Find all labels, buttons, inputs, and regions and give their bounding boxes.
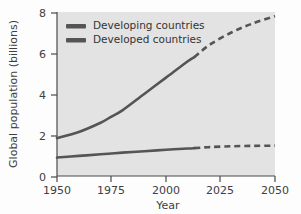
x-axis-title: Year — [155, 199, 180, 212]
y-axis-title: Global population (billions) — [7, 20, 20, 168]
y-tick-label-2: 2 — [39, 130, 46, 143]
legend-label-developing: Developing countries — [93, 19, 205, 31]
x-tick-label-2050: 2050 — [261, 184, 289, 197]
y-tick-label-6: 6 — [39, 48, 46, 61]
x-tick-label-2000: 2000 — [152, 184, 180, 197]
x-axis-ticks — [57, 176, 275, 182]
population-line-chart: 0 2 4 6 8 1950 1975 2000 2025 2050 Year … — [0, 0, 301, 214]
y-tick-label-8: 8 — [39, 7, 46, 20]
x-tick-label-1950: 1950 — [43, 184, 71, 197]
x-axis-tick-labels: 1950 1975 2000 2025 2050 — [43, 184, 289, 197]
y-axis-ticks — [51, 13, 57, 177]
x-tick-label-1975: 1975 — [97, 184, 125, 197]
chart-figure: 0 2 4 6 8 1950 1975 2000 2025 2050 Year … — [0, 0, 301, 214]
y-tick-label-4: 4 — [39, 89, 46, 102]
legend-label-developed: Developed countries — [93, 33, 201, 45]
x-tick-label-2025: 2025 — [206, 184, 234, 197]
y-tick-label-0: 0 — [39, 171, 46, 184]
legend-swatch-developing — [66, 24, 86, 29]
y-axis-tick-labels: 0 2 4 6 8 — [39, 7, 46, 184]
legend-swatch-developed — [66, 38, 86, 43]
